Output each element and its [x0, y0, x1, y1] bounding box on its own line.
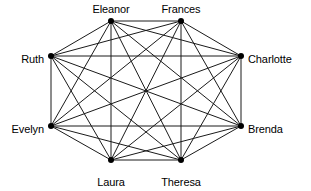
graph-edge: [111, 126, 241, 160]
network-diagram: EleanorFrancesCharlotteBrendaTheresaLaur…: [0, 0, 311, 191]
node-label-ruth: Ruth: [21, 53, 44, 65]
node-label-frances: Frances: [161, 3, 201, 15]
graph-node-ruth[interactable]: [48, 53, 54, 59]
graph-edge: [51, 56, 181, 160]
graph-edge: [51, 21, 111, 126]
edge-layer: [51, 21, 241, 160]
node-label-eleanor: Eleanor: [92, 3, 130, 15]
graph-edge: [181, 21, 241, 126]
graph-node-brenda[interactable]: [238, 123, 244, 129]
node-label-evelyn: Evelyn: [12, 123, 44, 135]
graph-edge: [51, 21, 181, 56]
graph-edge: [111, 21, 241, 126]
graph-edge: [51, 126, 181, 160]
node-label-brenda: Brenda: [248, 123, 284, 135]
node-label-charlotte: Charlotte: [248, 53, 292, 65]
graph-node-frances[interactable]: [178, 18, 184, 24]
graph-node-theresa[interactable]: [178, 157, 184, 163]
graph-edge: [181, 56, 241, 160]
graph-edge: [51, 21, 181, 126]
node-label-theresa: Theresa: [161, 176, 202, 188]
graph-edge: [111, 56, 241, 160]
graph-edge: [51, 126, 111, 160]
graph-node-evelyn[interactable]: [48, 123, 54, 129]
graph-edge: [181, 126, 241, 160]
node-label-laura: Laura: [97, 176, 126, 188]
graph-node-laura[interactable]: [108, 157, 114, 163]
graph-node-charlotte[interactable]: [238, 53, 244, 59]
graph-edge: [111, 21, 241, 56]
graph-edge: [51, 56, 111, 160]
graph-edge: [51, 21, 111, 56]
graph-node-eleanor[interactable]: [108, 18, 114, 24]
graph-edge: [181, 21, 241, 56]
graph-canvas: EleanorFrancesCharlotteBrendaTheresaLaur…: [0, 0, 311, 191]
